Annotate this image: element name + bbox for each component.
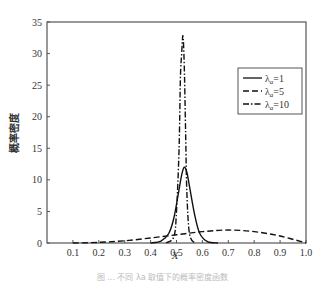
x-tick-label: 0.7 (222, 247, 235, 258)
chart-canvas: 0.10.20.30.40.50.60.70.80.91.00510152025… (0, 0, 325, 282)
x-tick-label: 0.1 (67, 247, 80, 258)
tick-marks: 0.10.20.30.40.50.60.70.80.91.00510152025… (32, 17, 312, 259)
x-tick-label: 0.6 (196, 247, 209, 258)
x-tick-label: 1.0 (300, 247, 313, 258)
legend: λa=1λa=5λa=10 (238, 68, 302, 114)
x-tick-label: 0.9 (274, 247, 287, 258)
y-tick-label: 35 (32, 17, 42, 28)
x-axis-label: X (171, 249, 180, 261)
x-tick-label: 0.4 (144, 247, 157, 258)
y-axis-label-group: 概率密度 (8, 112, 20, 153)
y-tick-label: 5 (37, 206, 42, 217)
y-tick-label: 15 (32, 143, 42, 154)
y-axis-label: 概率密度 (8, 112, 20, 153)
x-tick-label: 0.3 (118, 247, 131, 258)
y-tick-label: 25 (32, 80, 42, 91)
y-tick-label: 20 (32, 111, 42, 122)
x-tick-label: 0.2 (93, 247, 106, 258)
y-tick-label: 30 (32, 48, 42, 59)
curve-dashdot (166, 36, 194, 243)
curves (73, 36, 306, 243)
y-tick-label: 10 (32, 174, 42, 185)
figure-caption: 图 ... 不同 λa 取值下的概率密度函数 (0, 271, 325, 282)
x-tick-label: 0.8 (248, 247, 261, 258)
y-tick-label: 0 (37, 238, 42, 249)
